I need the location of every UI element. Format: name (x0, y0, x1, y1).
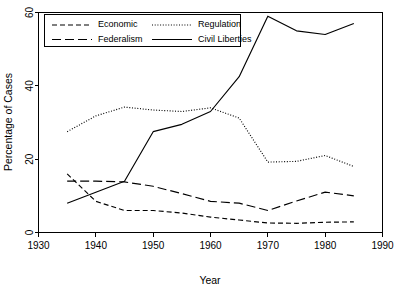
legend-label-regulation: Regulation (198, 19, 241, 29)
legend-label-federalism: Federalism (98, 34, 143, 44)
x-tick-label: 1990 (371, 240, 394, 251)
line-chart: 0204060 1930194019501960197019801990 Yea… (0, 0, 399, 292)
x-tick-label: 1950 (142, 240, 165, 251)
legend-label-civil-liberties: Civil Liberties (198, 34, 252, 44)
y-tick-label: 0 (24, 229, 35, 235)
y-tick-label: 40 (24, 80, 35, 92)
x-axis-ticks: 1930194019501960197019801990 (27, 233, 394, 251)
y-tick-label: 20 (24, 153, 35, 165)
y-axis-ticks: 0204060 (24, 7, 38, 236)
series-line-regulation (67, 107, 354, 166)
data-series-group (67, 16, 354, 223)
y-axis-title: Percentage of Cases (2, 73, 14, 171)
x-axis-title: Year (199, 274, 221, 286)
x-tick-label: 1940 (85, 240, 108, 251)
legend-label-economic: Economic (98, 19, 138, 29)
x-tick-label: 1980 (314, 240, 337, 251)
y-tick-label: 60 (24, 7, 35, 19)
chart-figure: 0204060 1930194019501960197019801990 Yea… (0, 0, 399, 292)
series-line-federalism (67, 181, 354, 210)
chart-legend: EconomicRegulationFederalismCivil Libert… (45, 15, 253, 47)
x-tick-label: 1930 (27, 240, 50, 251)
x-tick-label: 1960 (199, 240, 222, 251)
x-tick-label: 1970 (257, 240, 280, 251)
